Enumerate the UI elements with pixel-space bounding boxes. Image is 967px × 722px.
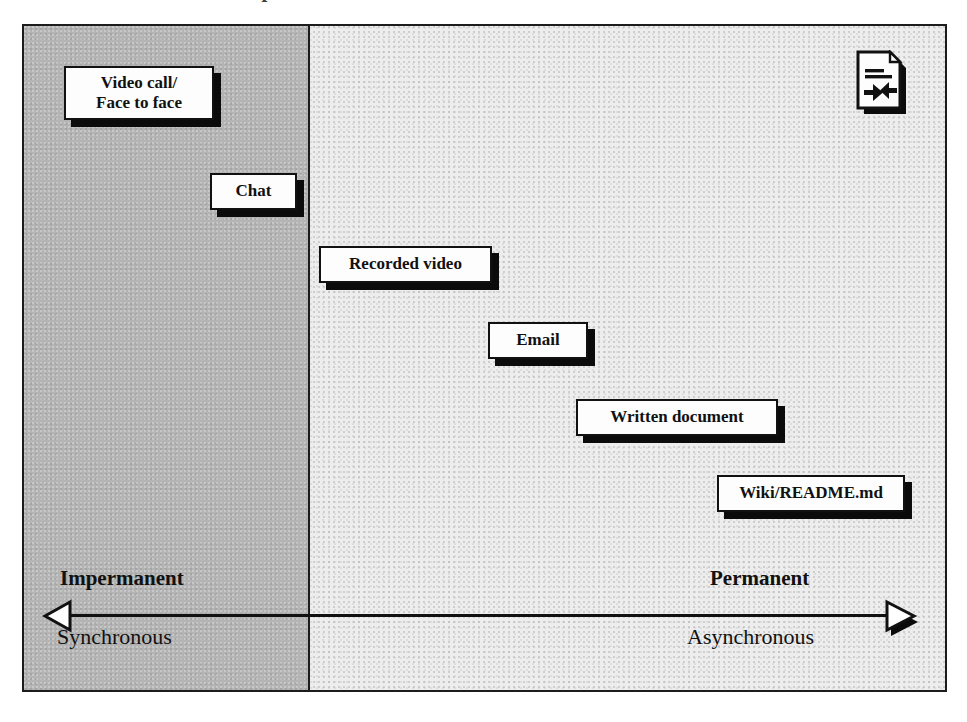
node-wiki-readme[interactable]: Wiki/README.md [717,475,905,512]
node-video-call[interactable]: Video call/ Face to face [64,66,214,120]
axis-caption-permanent: Permanent [710,566,809,591]
axis-caption-impermanent: Impermanent [60,566,184,591]
axis-caption-asynchronous: Asynchronous [687,624,814,650]
cropped-caption-strip: Communication spectrum [0,0,967,22]
node-email[interactable]: Email [488,322,588,359]
node-chat[interactable]: Chat [210,173,297,210]
node-recorded-video[interactable]: Recorded video [319,246,492,283]
diagram-frame: Video call/ Face to face Chat Recorded v… [22,24,947,692]
document-merge-icon [856,50,908,116]
axis-line [68,614,891,617]
cropped-caption-text: Communication spectrum [96,0,341,3]
zone-divider-line [308,26,310,690]
axis-caption-synchronous: Synchronous [57,624,172,650]
zone-asynchronous-permanent [308,26,945,690]
node-written-document[interactable]: Written document [576,399,778,436]
